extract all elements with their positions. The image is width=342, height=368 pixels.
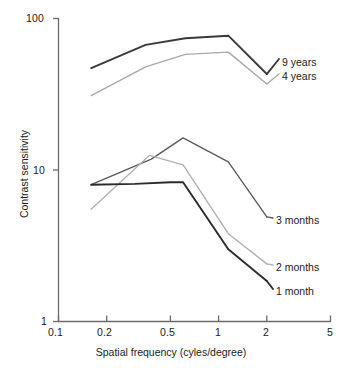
series-line-4-years <box>91 52 267 95</box>
leader-line-3-months <box>267 217 273 218</box>
y-axis-title: Contrast sensitivity <box>18 94 30 254</box>
leader-line-2-months <box>267 264 273 265</box>
x-axis-ticks <box>59 316 331 322</box>
x-tick-label-1: 1 <box>215 326 221 338</box>
y-tick-label-1: 1 <box>41 315 47 327</box>
series-label-1-month: 1 month <box>276 285 314 297</box>
series-label-9-years: 9 years <box>282 56 316 68</box>
x-axis-title: Spatial frequency (cyles/degree) <box>0 346 342 358</box>
y-axis-ticks <box>53 19 59 322</box>
y-tick-label-100: 100 <box>26 12 44 24</box>
label-leader-lines <box>267 59 279 289</box>
x-tick-label-2: 2 <box>263 326 269 338</box>
y-tick-label-10: 10 <box>33 164 45 176</box>
x-tick-label-0.1: 0.1 <box>48 326 63 338</box>
series-line-2-months <box>91 155 267 264</box>
x-tick-label-0.5: 0.5 <box>160 326 175 338</box>
leader-line-9-years <box>267 59 279 74</box>
series-line-3-months <box>91 138 267 217</box>
chart-figure: 100 10 1 0.1 0.2 0.5 1 2 5 Spatial frequ… <box>0 0 342 368</box>
series-line-9-years <box>91 36 267 74</box>
leader-line-1-month <box>267 281 273 289</box>
series-label-3-months: 3 months <box>276 214 319 226</box>
series-line-1-month <box>91 182 267 281</box>
data-series-layer <box>91 36 267 281</box>
x-tick-label-0.2: 0.2 <box>97 326 112 338</box>
series-label-2-months: 2 months <box>276 261 319 273</box>
series-label-4-years: 4 years <box>282 70 316 82</box>
leader-line-4-years <box>267 74 279 84</box>
x-tick-label-5: 5 <box>327 326 333 338</box>
